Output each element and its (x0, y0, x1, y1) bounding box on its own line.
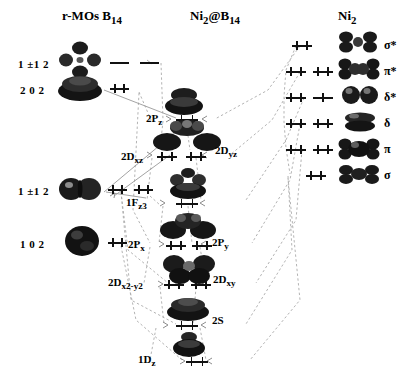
electron-up (112, 185, 114, 194)
electron-down (121, 238, 123, 247)
electron-down (300, 67, 302, 76)
mo-label-sub: x (140, 243, 145, 253)
mo-label-sub: x2-y2 (121, 281, 142, 291)
left-level-marker-3b (134, 185, 153, 194)
electron-down (147, 185, 149, 194)
electron-up (310, 171, 312, 180)
orbital-left-1pm12-lower (58, 176, 102, 202)
header-center-text2: @B (208, 8, 229, 23)
level-bar (313, 71, 333, 73)
level-bar (306, 175, 326, 177)
orbital-left-102 (63, 224, 101, 258)
left-level-marker-4 (108, 238, 127, 247)
level-bar (292, 45, 312, 47)
level-bar (166, 245, 186, 247)
mo-label-2s: 2S (212, 314, 224, 329)
mo-label-2py: 2Py (212, 236, 229, 251)
electron-up (317, 119, 319, 128)
mo-label-text: 1D (138, 353, 151, 365)
electron-up (190, 152, 192, 161)
electron-up (170, 241, 172, 250)
mo-label-sub: z3 (138, 201, 147, 211)
mo-label-1dz: 1Dz (138, 353, 156, 368)
right-level-marker-sigma (306, 171, 326, 180)
electron-down (300, 119, 302, 128)
right-level-marker-sigma-star-a (292, 41, 312, 50)
electron-down (171, 152, 173, 161)
level-bar (191, 284, 211, 286)
left-level-marker-1b (140, 58, 159, 67)
right-level-marker-delta-star-a (286, 93, 306, 102)
electron-up (296, 41, 298, 50)
mo-label-text: 2D (121, 150, 134, 162)
center-level-marker-1fz3 (176, 199, 198, 208)
electron-up (196, 241, 198, 250)
left-level-marker-2 (110, 84, 129, 93)
level-bar (140, 62, 159, 64)
mo-label-sub: yz (228, 149, 237, 159)
right-level-marker-delta-star-b (313, 93, 333, 102)
electron-up (114, 84, 116, 93)
level-bar (108, 189, 127, 191)
right-level-label-delta: δ (384, 116, 390, 131)
right-level-marker-pi-star-a (286, 67, 306, 76)
orbital-center-2p-xy (160, 210, 216, 242)
header-center-text: Ni (190, 8, 203, 23)
left-level-marker-1a (110, 58, 129, 67)
header-right-column: Ni2 (338, 8, 356, 26)
right-level-marker-pi-star-b (313, 67, 333, 76)
level-bar (157, 156, 177, 158)
center-level-marker-2dxz (157, 152, 177, 161)
level-bar (186, 156, 206, 158)
level-bar (134, 189, 153, 191)
electron-up (317, 67, 319, 76)
level-bar (108, 242, 127, 244)
center-level-marker-2dxy (191, 280, 211, 289)
level-bar (313, 149, 333, 151)
header-right-text: Ni (338, 8, 351, 23)
header-left-column: r-MOs B14 (62, 8, 122, 26)
mo-label-2dxy: 2Dxy (213, 273, 236, 288)
left-level-label-2: 2 0 2 (20, 84, 45, 96)
electron-down (320, 171, 322, 180)
header-right-sub: 2 (351, 14, 356, 26)
electron-down (300, 93, 302, 102)
right-level-marker-pi-a (286, 145, 306, 154)
level-bar (176, 203, 198, 205)
electron-up (290, 67, 292, 76)
level-bar (286, 97, 306, 99)
right-level-label-pi-star: π* (384, 64, 397, 79)
level-bar (186, 361, 208, 363)
mo-label-1fz3: 1Fz3 (126, 196, 147, 211)
orbital-center-2d-xz-yz (152, 116, 222, 154)
right-level-marker-pi-b (313, 145, 333, 154)
electron-down (205, 280, 207, 289)
electron-down (300, 145, 302, 154)
electron-up (181, 321, 183, 330)
electron-down (121, 185, 123, 194)
mo-label-text: 2S (212, 314, 224, 326)
mo-label-text: 2D (213, 273, 226, 285)
mo-label-sub: xy (226, 278, 235, 288)
right-level-label-delta-star: δ* (384, 90, 396, 105)
electron-down (206, 241, 208, 250)
right-level-label-pi: π (384, 142, 391, 157)
level-bar (192, 245, 212, 247)
electron-down (192, 321, 194, 330)
level-bar (110, 62, 129, 64)
electron-down (192, 199, 194, 208)
mo-label-sub: y (224, 241, 229, 251)
mo-label-text: 2P (128, 238, 140, 250)
mo-label-text: 2D (108, 276, 121, 288)
center-level-marker-2dx2y2 (164, 280, 184, 289)
electron-down (123, 84, 125, 93)
mo-label-text: 1F (126, 196, 138, 208)
electron-down (327, 67, 329, 76)
orbital-center-2s (163, 295, 213, 323)
electron-down (202, 357, 204, 366)
electron-up (290, 93, 292, 102)
electron-up (191, 357, 193, 366)
electron-down (200, 152, 202, 161)
level-bar (176, 325, 198, 327)
electron-up (161, 152, 163, 161)
